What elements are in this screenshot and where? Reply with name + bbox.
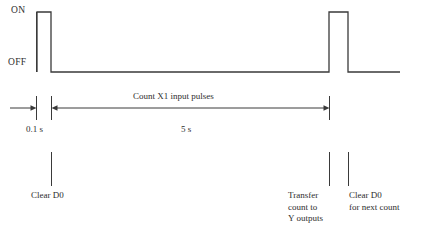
event-label-transfer-line1: Transfer xyxy=(288,190,323,202)
event-label-clear-d0-next: Clear D0 for next count xyxy=(349,190,399,213)
dim-arrowhead-right-at-pulse-start xyxy=(31,105,37,111)
dimension-label-count-window: 5 s xyxy=(181,124,191,134)
event-label-clear-d0-line1: Clear D0 xyxy=(31,190,64,202)
event-label-clear-next-line1: Clear D0 xyxy=(349,190,399,202)
dimension-label-pulse-width: 0.1 s xyxy=(26,124,43,134)
level-label-on: ON xyxy=(11,5,25,15)
level-label-off: OFF xyxy=(8,57,26,67)
event-label-transfer-line3: Y outputs xyxy=(288,213,323,225)
dim-arrowhead-right-at-window-end xyxy=(324,105,330,111)
event-label-transfer-line2: count to xyxy=(288,202,323,214)
pulse-trace xyxy=(37,12,400,72)
timing-diagram-figure: ON OFF Count X1 input pulses 0.1 s 5 s C… xyxy=(0,0,434,238)
event-label-clear-d0: Clear D0 xyxy=(31,190,64,202)
event-label-clear-next-line2: for next count xyxy=(349,202,399,214)
count-window-caption: Count X1 input pulses xyxy=(133,91,214,101)
event-label-transfer-count: Transfer count to Y outputs xyxy=(288,190,323,225)
dim-arrowhead-left-at-window-start xyxy=(52,105,58,111)
